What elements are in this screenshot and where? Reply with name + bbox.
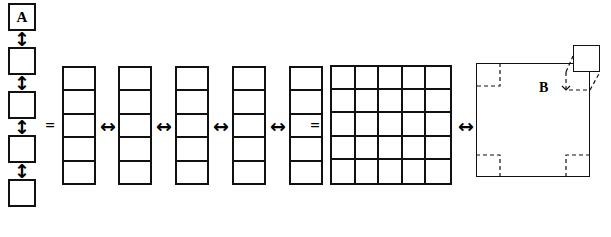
column-cell [291,91,321,114]
horizontal-arrow-4: ↔ [268,117,288,135]
vertical-arrow-3: ↕ [8,119,36,135]
inset-small-square [573,45,600,72]
grid-cell [403,160,427,183]
equals-glyph: = [45,117,55,134]
grid-cell [379,67,403,90]
column-cell [120,138,150,161]
arrow-up-down-icon: ↕ [14,162,30,181]
grid-cell [356,67,380,90]
grid-cell [356,160,380,183]
column-cell [177,138,207,161]
column-cell [64,91,94,114]
equals-sign-2: = [307,117,323,133]
unit-square-5 [8,179,36,207]
equals-glyph: = [310,117,320,134]
grid-cell [403,90,427,113]
grid-cell [356,137,380,160]
grid-cell [332,137,356,160]
vertical-arrow-1: ↕ [8,31,36,47]
horizontal-arrow-1: ↔ [98,117,118,135]
grid-cell [426,113,450,136]
column-cell [64,138,94,161]
horizontal-arrow-3: ↔ [211,117,231,135]
column-cell [234,138,264,161]
column-cell [291,68,321,91]
grid-cell [426,90,450,113]
column-cell [234,91,264,114]
grid-cell [379,137,403,160]
unit-square-a: A [8,3,36,31]
column-cell [64,115,94,138]
grid-cell [426,137,450,160]
unit-square-4 [8,135,36,163]
unit-square-3 [8,91,36,119]
grid-cell [403,67,427,90]
arrow-up-down-icon: ↕ [14,118,30,137]
column-cell [120,162,150,183]
vertical-arrow-4: ↕ [8,163,36,179]
column-cell [177,162,207,183]
arrow-left-right-icon: ↔ [156,117,172,136]
column-cell [291,162,321,183]
arrow-left-right-icon: ↔ [270,117,286,136]
column-4 [232,66,266,185]
vertical-arrow-2: ↕ [8,75,36,91]
dashed-connector-lower [590,72,600,90]
column-1 [62,66,96,185]
grid-cell [332,67,356,90]
column-cell [234,115,264,138]
column-3 [175,66,209,185]
grid-cell [332,90,356,113]
column-cell [120,115,150,138]
grid-cell [379,113,403,136]
column-cell [120,68,150,91]
grid-cell [332,160,356,183]
grid-cell [426,67,450,90]
unit-square-a-label: A [17,9,28,26]
grid-cell [426,160,450,183]
horizontal-arrow-5: ↔ [456,117,476,135]
column-cell [177,68,207,91]
arrow-up-down-icon: ↕ [14,74,30,93]
grid-cell [403,113,427,136]
grid-cell [332,113,356,136]
equals-sign-1: = [42,117,58,133]
column-cell [64,68,94,91]
arrow-left-right-icon: ↔ [100,117,116,136]
arrow-left-right-icon: ↔ [458,117,474,136]
column-cell [177,91,207,114]
big-square-b [476,63,590,177]
column-2 [118,66,152,185]
column-cell [120,91,150,114]
unit-square-2 [8,47,36,75]
arrow-left-right-icon: ↔ [213,117,229,136]
five-by-five-grid [330,65,452,185]
grid-cell [356,113,380,136]
grid-cell [403,137,427,160]
column-cell [234,68,264,91]
column-cell [177,115,207,138]
column-cell [234,162,264,183]
grid-cell [379,90,403,113]
big-square-b-label: B [539,80,548,96]
horizontal-arrow-2: ↔ [154,117,174,135]
column-cell [291,138,321,161]
grid-cell [356,90,380,113]
grid-cell [379,160,403,183]
arrow-up-down-icon: ↕ [14,30,30,49]
figure-canvas: A ↕ ↕ ↕ ↕ = ↔ ↔ [0,0,611,237]
column-cell [64,162,94,183]
